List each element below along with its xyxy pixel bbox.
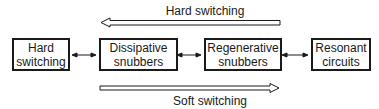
box-label-line2: circuits xyxy=(322,55,359,69)
box-label-line1: Hard xyxy=(28,41,54,55)
regenerative-snubbers-box: Regenerative snubbers xyxy=(204,38,282,71)
box-label-line2: snubbers xyxy=(218,55,267,69)
hard-switching-box: Hard switching xyxy=(12,38,70,71)
box-label-line2: switching xyxy=(16,55,65,69)
soft-switching-arrow-icon xyxy=(100,84,279,93)
box-label-line2: snubbers xyxy=(114,55,163,69)
dissipative-snubbers-box: Dissipative snubbers xyxy=(99,38,178,71)
resonant-circuits-box: Resonant circuits xyxy=(311,38,371,71)
box-label-line1: Regenerative xyxy=(207,41,278,55)
box-label-line1: Dissipative xyxy=(109,41,167,55)
hard-switching-label: Hard switching xyxy=(150,4,260,18)
soft-switching-label: Soft switching xyxy=(155,94,265,108)
box-label-line1: Resonant xyxy=(315,41,366,55)
hard-switching-arrow-icon xyxy=(101,18,280,27)
